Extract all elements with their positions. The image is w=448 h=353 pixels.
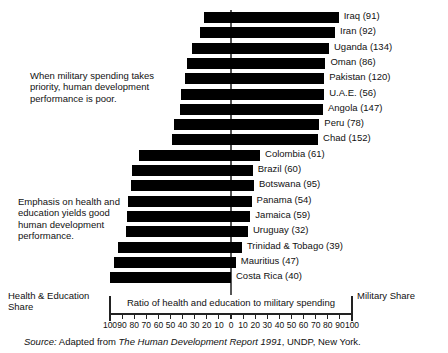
bar-label: Jamaica (59) xyxy=(255,209,310,220)
bar-label: Oman (86) xyxy=(330,56,375,67)
bar xyxy=(132,165,253,176)
axis-tick xyxy=(218,313,219,319)
source-note: Source: Adapted from The Human Developme… xyxy=(24,336,361,348)
axis-tick-label: 100 xyxy=(342,320,362,330)
bar-label: Colombia (61) xyxy=(265,148,325,159)
source-title: The Human Development Report 1991 xyxy=(119,336,282,347)
bar-label: Brazil (60) xyxy=(258,163,301,174)
bar-label: Angola (147) xyxy=(328,102,382,113)
bar-row: Mauritius (47) xyxy=(0,257,448,268)
bar xyxy=(139,150,260,161)
bar-label: U.A.E. (56) xyxy=(329,87,376,98)
bar-row: Botswana (95) xyxy=(0,180,448,191)
bar-label: Peru (78) xyxy=(324,117,364,128)
axis-tick xyxy=(327,313,328,319)
bar xyxy=(192,43,329,54)
bar-row: Trinidad & Tobago (39) xyxy=(0,242,448,253)
bar-row: Colombia (61) xyxy=(0,150,448,161)
bar xyxy=(118,242,241,253)
axis-tick xyxy=(291,313,292,319)
bar-row: Angola (147) xyxy=(0,104,448,115)
axis-tick xyxy=(206,313,207,319)
bar xyxy=(180,104,323,115)
bar-row: Costa Rica (40) xyxy=(0,272,448,283)
bar-row: Peru (78) xyxy=(0,119,448,130)
bar xyxy=(185,73,324,84)
axis-label-military-share: Military Share xyxy=(357,290,415,301)
axis-tick xyxy=(243,313,244,319)
annotation-health-education: Emphasis on health and education yields … xyxy=(18,196,168,242)
axis-tick xyxy=(351,313,352,319)
bar-label: Mauritius (47) xyxy=(241,255,299,266)
axis-tick xyxy=(255,313,256,319)
plot-area: Iraq (91)Iran (92)Uganda (134)Oman (86)P… xyxy=(0,0,448,300)
source-text-before: Adapted from xyxy=(57,336,119,347)
axis-tick xyxy=(109,313,110,319)
bar xyxy=(110,272,231,283)
bar-row: Iraq (91) xyxy=(0,12,448,23)
bar-label: Panama (54) xyxy=(257,194,312,205)
bar-label: Uganda (134) xyxy=(334,41,392,52)
bar-label: Pakistan (120) xyxy=(329,71,390,82)
bar-label: Botswana (95) xyxy=(259,178,320,189)
axis-tick xyxy=(122,313,123,319)
axis-tick xyxy=(146,313,147,319)
bar xyxy=(200,27,336,38)
source-text-after: , UNDP, New York. xyxy=(282,336,361,347)
x-axis-caption: Ratio of health and education to militar… xyxy=(110,297,352,309)
axis-label-health-education-share: Health & Education Share xyxy=(8,290,106,313)
axis-tick xyxy=(279,313,280,319)
bar-label: Chad (152) xyxy=(323,132,371,143)
bar xyxy=(187,58,325,69)
chart-figure: Iraq (91)Iran (92)Uganda (134)Oman (86)P… xyxy=(0,0,448,353)
bar-row: Uganda (134) xyxy=(0,43,448,54)
bar xyxy=(181,89,324,100)
bar xyxy=(204,12,338,23)
bar xyxy=(172,134,318,145)
bar-label: Costa Rica (40) xyxy=(236,270,302,281)
axis-tick xyxy=(170,313,171,319)
bar-label: Trinidad & Tobago (39) xyxy=(247,240,343,251)
bar-label: Uruguay (32) xyxy=(253,224,308,235)
bar-row: Chad (152) xyxy=(0,134,448,145)
bar-row: Oman (86) xyxy=(0,58,448,69)
axis-tick xyxy=(339,313,340,319)
axis-tick xyxy=(182,313,183,319)
bar-row: Iran (92) xyxy=(0,27,448,38)
axis-tick xyxy=(267,313,268,319)
axis-tick xyxy=(230,313,231,319)
bar xyxy=(174,119,319,130)
source-prefix: Source: xyxy=(24,336,57,347)
bar-label: Iraq (91) xyxy=(344,10,380,21)
axis-tick xyxy=(134,313,135,319)
axis-tick xyxy=(303,313,304,319)
axis-tick xyxy=(158,313,159,319)
annotation-military-spending: When military spending takes priority, h… xyxy=(30,70,180,104)
bar-label: Iran (92) xyxy=(340,25,376,36)
axis-tick xyxy=(194,313,195,319)
axis-tick xyxy=(315,313,316,319)
bar xyxy=(114,257,236,268)
bar-row: Brazil (60) xyxy=(0,165,448,176)
bar xyxy=(131,180,254,191)
